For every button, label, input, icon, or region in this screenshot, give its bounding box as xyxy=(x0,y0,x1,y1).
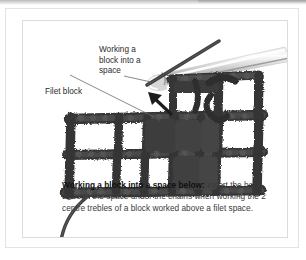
callout-working-a-block-into-a-space: Working a block into a space xyxy=(99,45,171,77)
caption-lead: Working a block into a space below: xyxy=(62,180,205,190)
page: Working a block into a space Filet block… xyxy=(0,0,306,260)
figure-caption: Working a block into a space below: Inse… xyxy=(62,180,278,214)
callout-filet-block: Filet block xyxy=(45,87,109,98)
leader-line-working xyxy=(124,76,151,82)
page-top-band-right xyxy=(198,0,306,4)
insertion-arrow-icon xyxy=(148,92,171,114)
